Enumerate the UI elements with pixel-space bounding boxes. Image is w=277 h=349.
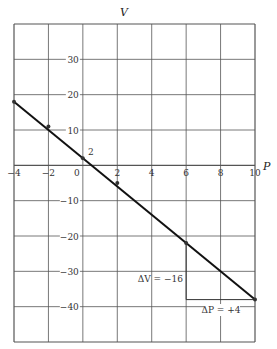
grid [14, 24, 255, 342]
y-axis-label: V [120, 6, 129, 19]
x-tick-label: 10 [249, 168, 261, 178]
y-tick-label: −20 [60, 232, 79, 242]
y-tick-label: −30 [60, 267, 79, 277]
data-point [12, 100, 16, 104]
line-chart: −4−20246810302010−10−20−30−40 V P 2 ΔV =… [0, 0, 277, 349]
x-tick-label: −2 [42, 168, 55, 178]
x-axis-label: P [262, 160, 271, 173]
delta-v-label: ΔV = −16 [138, 274, 184, 284]
delta-p-label: ΔP = +4 [201, 305, 240, 315]
y-tick-label: 30 [67, 55, 79, 65]
x-tick-label: 0 [74, 168, 80, 178]
data-point [46, 124, 50, 128]
y-tick-label: 20 [67, 90, 79, 100]
y-tick-label: −40 [60, 302, 79, 312]
y-tick-label: 10 [67, 126, 79, 136]
x-tick-label: 4 [149, 168, 155, 178]
x-tick-label: 6 [183, 168, 189, 178]
x-tick-label: −4 [7, 168, 21, 178]
x-tick-label: 2 [114, 168, 120, 178]
intercept-label: 2 [88, 147, 94, 157]
data-point [81, 156, 85, 160]
data-point [253, 298, 257, 302]
x-tick-label: 8 [218, 168, 224, 178]
y-tick-label: −10 [60, 196, 79, 206]
data-point [115, 181, 119, 185]
data-point [184, 241, 188, 245]
